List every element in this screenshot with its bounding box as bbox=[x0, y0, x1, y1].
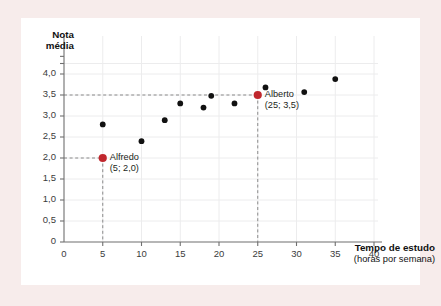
x-tick-label-3: 15 bbox=[166, 249, 194, 259]
guide-lines bbox=[64, 95, 258, 242]
gridlines bbox=[64, 36, 378, 242]
annotation-alberto: Alberto(25; 3,5) bbox=[265, 89, 299, 111]
y-axis-title-line1: Nota bbox=[52, 29, 74, 40]
annotation-alfredo-name: Alfredo bbox=[110, 152, 139, 162]
annotation-alberto-name: Alberto bbox=[265, 89, 294, 99]
x-tick-label-5: 25 bbox=[244, 249, 272, 259]
annotation-alfredo: Alfredo(5; 2,0) bbox=[110, 152, 139, 174]
data-point-5 bbox=[201, 105, 207, 111]
annotation-alfredo-coords: (5; 2,0) bbox=[110, 163, 139, 174]
axis-ticks bbox=[60, 56, 374, 246]
y-tick-label-0: 0 bbox=[22, 236, 56, 246]
annotation-alberto-coords: (25; 3,5) bbox=[265, 100, 299, 111]
data-point-1 bbox=[100, 122, 106, 128]
data-point-10 bbox=[301, 89, 307, 95]
data-point-2 bbox=[139, 138, 145, 144]
data-point-7 bbox=[232, 101, 238, 107]
highlighted-point-alfredo bbox=[99, 154, 107, 162]
data-points bbox=[99, 76, 339, 162]
y-axis-title-line2: média bbox=[46, 40, 74, 51]
axis-lines bbox=[64, 36, 382, 242]
data-point-4 bbox=[177, 101, 183, 107]
data-point-11 bbox=[332, 76, 338, 82]
y-tick-label-3: 1,5 bbox=[22, 173, 56, 183]
x-tick-label-6: 30 bbox=[283, 249, 311, 259]
y-tick-label-2: 1,0 bbox=[22, 194, 56, 204]
y-tick-label-1: 0,5 bbox=[22, 215, 56, 225]
x-tick-label-7: 35 bbox=[321, 249, 349, 259]
y-tick-label-6: 3,0 bbox=[22, 110, 56, 120]
x-tick-label-2: 10 bbox=[128, 249, 156, 259]
x-tick-label-8: 40 bbox=[360, 249, 388, 259]
y-tick-label-7: 3,5 bbox=[22, 89, 56, 99]
data-point-6 bbox=[208, 93, 214, 99]
y-tick-label-5: 2,5 bbox=[22, 131, 56, 141]
highlighted-point-alberto bbox=[254, 91, 262, 99]
data-point-3 bbox=[162, 117, 168, 123]
y-tick-label-4: 2,0 bbox=[22, 152, 56, 162]
y-axis-title: Notamédia bbox=[26, 30, 74, 51]
x-tick-label-0: 0 bbox=[50, 249, 78, 259]
x-tick-label-4: 20 bbox=[205, 249, 233, 259]
x-tick-label-1: 5 bbox=[89, 249, 117, 259]
y-tick-label-8: 4,0 bbox=[22, 68, 56, 78]
